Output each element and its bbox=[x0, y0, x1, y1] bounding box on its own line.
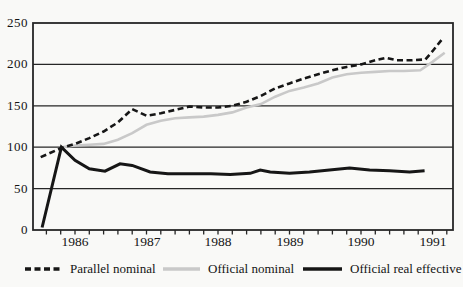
plot-border bbox=[33, 23, 453, 230]
legend-label-official-nominal: Official nominal bbox=[201, 261, 294, 277]
legend-label-official-real-effective: Official real effective bbox=[343, 261, 461, 277]
official-real-effective-swatch-icon bbox=[302, 264, 343, 274]
y-tick-label-100: 100 bbox=[0, 140, 28, 154]
legend-label-parallel-nominal: Parallel nominal bbox=[63, 261, 156, 277]
parallel-nominal-swatch-icon bbox=[24, 264, 63, 274]
x-tick-label-1988: 1988 bbox=[196, 235, 240, 249]
exchange-rate-figure: 0 50 100 150 200 250 1986 1987 1988 1989… bbox=[0, 0, 463, 287]
y-tick-label-0: 0 bbox=[0, 223, 28, 237]
series-line-parallel-nominal bbox=[41, 39, 443, 157]
y-tick-label-150: 150 bbox=[0, 99, 28, 113]
exchange-rate-chart: 0 50 100 150 200 250 1986 1987 1988 1989… bbox=[0, 0, 463, 287]
x-tick-label-1987: 1987 bbox=[125, 235, 169, 249]
legend-item-official-real-effective: Official real effective bbox=[302, 259, 461, 279]
y-tick-label-50: 50 bbox=[0, 182, 28, 196]
chart-legend: Parallel nominal Official nominal Offici… bbox=[0, 259, 463, 281]
x-tick-label-1989: 1989 bbox=[268, 235, 312, 249]
y-tick-label-250: 250 bbox=[0, 16, 28, 30]
x-tick-label-1990: 1990 bbox=[339, 235, 383, 249]
y-tick-label-200: 200 bbox=[0, 57, 28, 71]
x-tick-label-1991: 1991 bbox=[411, 235, 455, 249]
legend-item-parallel-nominal: Parallel nominal bbox=[24, 259, 156, 279]
x-tick-label-1986: 1986 bbox=[53, 235, 97, 249]
legend-item-official-nominal: Official nominal bbox=[162, 259, 294, 279]
official-nominal-swatch-icon bbox=[162, 264, 201, 274]
series-line-official-real-effective bbox=[42, 147, 425, 227]
